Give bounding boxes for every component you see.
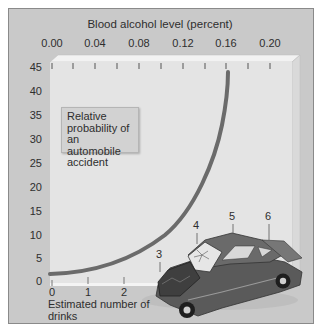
y-tick-label: 25 [12, 157, 42, 169]
y-tick-label: 20 [12, 181, 42, 193]
chart-plot [0, 0, 320, 334]
top-tick-label: 0.08 [128, 37, 149, 49]
top-tick-label: 0.12 [172, 37, 193, 49]
y-tick-label: 30 [12, 133, 42, 145]
car-marker-label: 5 [229, 210, 235, 222]
top-axis-title: Blood alcohol level (percent) [0, 18, 320, 30]
top-tick-label: 0.04 [84, 37, 105, 49]
top-tick-label: 0.00 [41, 37, 62, 49]
y-tick-label: 15 [12, 205, 42, 217]
y-tick-label: 40 [12, 85, 42, 97]
y-tick-label: 5 [12, 252, 42, 264]
top-tick-label: 0.20 [259, 37, 280, 49]
top-tick-label: 0.16 [215, 37, 236, 49]
x-tick-label: 0 [49, 286, 55, 298]
x-tick-label: 2 [121, 286, 127, 298]
y-tick-label: 0 [12, 275, 42, 287]
car-marker-label: 6 [265, 210, 271, 222]
legend-box: Relative probability of an automobile ac… [61, 107, 139, 153]
car-marker-label: 3 [156, 248, 162, 260]
y-tick-label: 10 [12, 229, 42, 241]
x-tick-label: 1 [85, 286, 91, 298]
panel-top-edge [50, 55, 300, 62]
y-tick-label: 35 [12, 109, 42, 121]
y-tick-label: 45 [12, 61, 42, 73]
car-marker-label: 4 [193, 219, 199, 231]
x-axis-title: Estimated number of drinks [48, 298, 158, 322]
